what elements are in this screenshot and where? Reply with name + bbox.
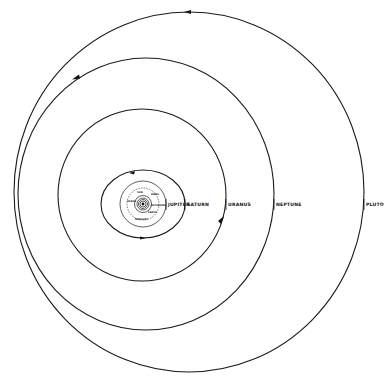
label-sun: SUN (137, 191, 143, 194)
orbit-neptune (18, 58, 274, 330)
label-saturn: SATURN (187, 202, 209, 207)
label-asteroids: ASTEROIDS (151, 204, 167, 207)
arrow-icon-pluto (184, 10, 191, 14)
label-venus: VENUS (127, 200, 136, 203)
label-earth: EARTH (148, 211, 157, 214)
label-mercury: MERCURY (135, 218, 148, 221)
orbit-uranus (58, 109, 226, 281)
arrow-icon-uranus (218, 216, 224, 224)
label-uranus: URANUS (228, 202, 251, 207)
solar-system-orbit-diagram: JUPITER SATURN URANUS NEPTUNE PLUTO SUN … (0, 0, 388, 380)
label-neptune: NEPTUNE (276, 202, 302, 207)
sun-icon (142, 203, 145, 206)
label-mars: MARS (151, 193, 159, 196)
label-pluto: PLUTO (366, 202, 384, 207)
arrow-icon-saturn-bottom (140, 237, 146, 240)
